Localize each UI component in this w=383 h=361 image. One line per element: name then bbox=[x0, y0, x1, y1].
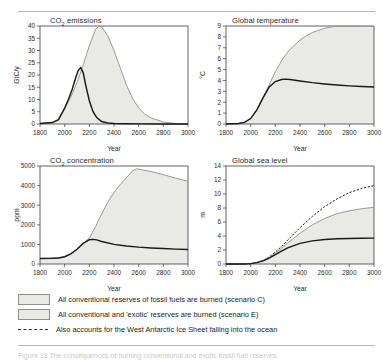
y-tick-label: 25 bbox=[28, 59, 36, 66]
top-divider bbox=[18, 11, 375, 12]
x-tick-label: 2200 bbox=[82, 129, 97, 136]
chart-global-sea-level: 180020002200240026002800300002468101214Y… bbox=[196, 156, 381, 291]
y-tick-label: 15 bbox=[28, 84, 36, 91]
panel-title-global-temperature: Global temperature bbox=[232, 16, 299, 25]
y-tick-label: 4 bbox=[217, 232, 221, 239]
panel-title-co2-concentration: CO2 concentration bbox=[50, 156, 114, 167]
y-tick-label: 1 bbox=[217, 109, 221, 116]
y-tick-label: 20 bbox=[28, 71, 36, 78]
bottom-divider bbox=[18, 345, 375, 346]
x-tick-label: 2800 bbox=[342, 129, 357, 136]
figure-caption-clipped: Figure 18 The consequences of burning co… bbox=[18, 352, 375, 361]
y-tick-label: 8 bbox=[217, 204, 221, 211]
y-axis-label: GtC/y bbox=[13, 66, 21, 84]
x-tick-label: 2400 bbox=[293, 129, 308, 136]
chart-co2-emissions: 1800200022002400260028003000051015202530… bbox=[10, 16, 195, 151]
y-axis-label: m bbox=[199, 212, 206, 218]
series-band-scenario-e bbox=[40, 26, 188, 124]
legend-item: All conventional reserves of fossil fuel… bbox=[18, 292, 375, 307]
y-tick-label: 0 bbox=[31, 120, 35, 127]
x-tick-label: 2800 bbox=[342, 269, 357, 276]
x-axis-label: Year bbox=[293, 285, 307, 292]
x-tick-label: 2200 bbox=[268, 129, 283, 136]
x-tick-label: 1800 bbox=[219, 129, 234, 136]
y-tick-label: 6 bbox=[217, 218, 221, 225]
x-tick-label: 2800 bbox=[156, 129, 171, 136]
legend-item: Also accounts for the West Antarctic Ice… bbox=[18, 322, 375, 337]
y-tick-label: 2 bbox=[217, 99, 221, 106]
y-tick-label: 0 bbox=[31, 260, 35, 267]
x-tick-label: 2400 bbox=[107, 129, 122, 136]
y-tick-label: 2 bbox=[217, 246, 221, 253]
y-tick-label: 0 bbox=[217, 260, 221, 267]
x-tick-label: 2200 bbox=[82, 269, 97, 276]
y-tick-label: 10 bbox=[214, 190, 222, 197]
x-tick-label: 1800 bbox=[33, 129, 48, 136]
x-tick-label: 2400 bbox=[107, 269, 122, 276]
x-tick-label: 2000 bbox=[244, 129, 259, 136]
x-tick-label: 1800 bbox=[33, 269, 48, 276]
x-tick-label: 2600 bbox=[318, 269, 333, 276]
x-tick-label: 2800 bbox=[156, 269, 171, 276]
series-band-scenario-e bbox=[40, 169, 188, 264]
legend-label: Also accounts for the West Antarctic Ice… bbox=[56, 325, 277, 334]
x-tick-label: 2000 bbox=[58, 129, 73, 136]
y-tick-label: 1000 bbox=[21, 241, 36, 248]
y-tick-label: 10 bbox=[28, 96, 36, 103]
x-axis-label: Year bbox=[107, 145, 121, 152]
x-tick-label: 2600 bbox=[132, 129, 147, 136]
grey-band-swatch-icon bbox=[18, 294, 50, 305]
y-tick-label: 5 bbox=[217, 66, 221, 73]
x-tick-label: 2000 bbox=[244, 269, 259, 276]
y-tick-label: 35 bbox=[28, 35, 36, 42]
y-tick-label: 30 bbox=[28, 47, 36, 54]
y-tick-label: 8 bbox=[217, 33, 221, 40]
legend-label: All conventional and 'exotic' reserves a… bbox=[58, 310, 258, 319]
x-tick-label: 1800 bbox=[219, 269, 234, 276]
panel-global-temperature: Global temperature 180020002200240026002… bbox=[196, 16, 381, 151]
legend-label: All conventional reserves of fossil fuel… bbox=[58, 295, 265, 304]
y-tick-label: 4 bbox=[217, 77, 221, 84]
y-tick-label: 9 bbox=[217, 22, 221, 29]
x-tick-label: 3000 bbox=[367, 129, 382, 136]
x-tick-label: 3000 bbox=[181, 269, 196, 276]
x-tick-label: 2400 bbox=[293, 269, 308, 276]
panel-title-global-sea-level: Global sea level bbox=[232, 156, 288, 165]
x-axis-label: Year bbox=[293, 145, 307, 152]
grey-band-swatch-icon bbox=[18, 309, 50, 320]
y-tick-label: 6 bbox=[217, 55, 221, 62]
panel-co2-concentration: CO2 concentration 1800200022002400260028… bbox=[10, 156, 195, 291]
x-tick-label: 2000 bbox=[58, 269, 73, 276]
y-tick-label: 3000 bbox=[21, 202, 36, 209]
x-tick-label: 2600 bbox=[132, 269, 147, 276]
legend-item: All conventional and 'exotic' reserves a… bbox=[18, 307, 375, 322]
dashed-line-swatch-icon bbox=[18, 329, 48, 330]
panel-title-co2-emissions: CO2 emissions bbox=[50, 16, 102, 27]
panel-co2-emissions: CO2 emissions 18002000220024002600280030… bbox=[10, 16, 195, 151]
x-axis-label: Year bbox=[107, 285, 121, 292]
chart-co2-concentration: 1800200022002400260028003000010002000300… bbox=[10, 156, 195, 291]
x-tick-label: 3000 bbox=[367, 269, 382, 276]
y-tick-label: 7 bbox=[217, 44, 221, 51]
y-tick-label: 5 bbox=[31, 108, 35, 115]
y-axis-label: ppm bbox=[13, 208, 21, 222]
x-tick-label: 2200 bbox=[268, 269, 283, 276]
x-tick-label: 3000 bbox=[181, 129, 196, 136]
y-tick-label: 14 bbox=[214, 162, 222, 169]
y-axis-label: °C bbox=[199, 71, 206, 79]
y-tick-label: 3 bbox=[217, 88, 221, 95]
y-tick-label: 5000 bbox=[21, 162, 36, 169]
y-tick-label: 12 bbox=[214, 176, 222, 183]
y-tick-label: 2000 bbox=[21, 221, 36, 228]
figure-panels: CO2 emissions 18002000220024002600280030… bbox=[0, 16, 383, 288]
legend: All conventional reserves of fossil fuel… bbox=[18, 292, 375, 337]
series-band-scenario-e bbox=[226, 207, 374, 264]
y-tick-label: 40 bbox=[28, 22, 36, 29]
y-tick-label: 0 bbox=[217, 120, 221, 127]
y-tick-label: 4000 bbox=[21, 182, 36, 189]
x-tick-label: 2600 bbox=[318, 129, 333, 136]
chart-global-temperature: 18002000220024002600280030000123456789Ye… bbox=[196, 16, 381, 151]
panel-global-sea-level: Global sea level 18002000220024002600280… bbox=[196, 156, 381, 291]
